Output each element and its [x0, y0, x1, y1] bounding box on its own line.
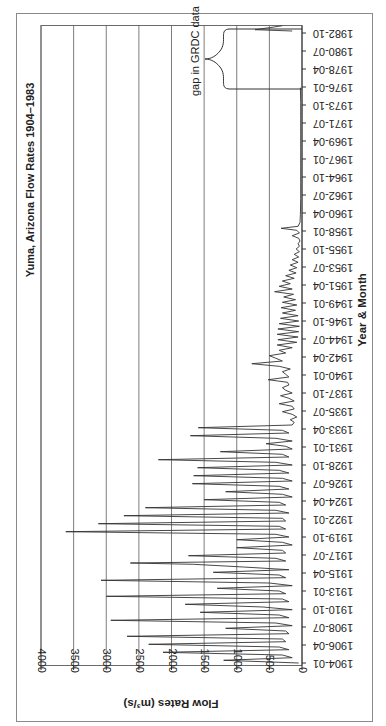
value-tick-label: 3000 — [101, 649, 113, 673]
flow-rate-chart: 05001000150020002500300035004000 1904-01… — [0, 0, 386, 726]
time-tick-label: 1926-07 — [313, 478, 353, 490]
value-tick-label: 0 — [297, 667, 309, 673]
time-tick-label: 1944-07 — [313, 334, 353, 346]
time-tick-label: 1969-04 — [313, 136, 353, 148]
time-tick-label: 1937-10 — [313, 388, 353, 400]
value-tick-label: 3500 — [69, 649, 81, 673]
time-tick-label: 1931-01 — [313, 442, 353, 454]
value-axis-title: Flow Rates (m³/s) — [123, 698, 218, 710]
time-tick-label: 1908-07 — [313, 622, 353, 634]
value-tick-label: 1500 — [199, 649, 211, 673]
time-tick-label: 1942-04 — [313, 352, 353, 364]
value-tick-label: 4000 — [36, 649, 48, 673]
time-tick-label: 1924-04 — [313, 496, 353, 508]
time-tick-label: 1951-04 — [313, 280, 353, 292]
chart-title: Yuma, Arizona Flow Rates 1904–1983 — [24, 83, 36, 278]
time-axis-ticks: 1904-011906-041908-071910-101913-011915-… — [302, 28, 353, 670]
flow-series-line — [66, 26, 301, 663]
time-tick-label: 1906-04 — [313, 640, 353, 652]
time-tick-label: 1960-04 — [313, 208, 353, 220]
time-tick-label: 1917-07 — [313, 550, 353, 562]
time-tick-label: 1955-10 — [313, 244, 353, 256]
time-tick-label: 1973-10 — [313, 100, 353, 112]
time-tick-label: 1946-10 — [313, 316, 353, 328]
gap-annotation-brace — [205, 29, 302, 89]
time-tick-label: 1928-10 — [313, 460, 353, 472]
time-tick-label: 1933-04 — [313, 424, 353, 436]
gap-annotation-label: gap in GRDC data — [189, 5, 201, 96]
time-tick-label: 1904-01 — [313, 658, 353, 670]
time-tick-label: 1958-01 — [313, 226, 353, 238]
time-tick-label: 1982-10 — [313, 28, 353, 40]
time-tick-label: 1953-07 — [313, 262, 353, 274]
time-tick-label: 1967-01 — [313, 154, 353, 166]
time-tick-label: 1949-01 — [313, 298, 353, 310]
time-tick-label: 1919-10 — [313, 532, 353, 544]
time-tick-label: 1980-07 — [313, 46, 353, 58]
time-tick-label: 1935-07 — [313, 406, 353, 418]
time-tick-label: 1976-01 — [313, 82, 353, 94]
value-tick-label: 2500 — [134, 649, 146, 673]
value-gridlines — [41, 26, 269, 667]
time-tick-label: 1964-10 — [313, 172, 353, 184]
time-axis-title: Year & Month — [356, 273, 368, 346]
time-tick-label: 1962-07 — [313, 190, 353, 202]
time-tick-label: 1913-01 — [313, 586, 353, 598]
time-tick-label: 1940-01 — [313, 370, 353, 382]
time-tick-label: 1978-04 — [313, 64, 353, 76]
value-tick-label: 500 — [264, 655, 276, 673]
time-tick-label: 1915-04 — [313, 568, 353, 580]
time-tick-label: 1922-01 — [313, 514, 353, 526]
time-tick-label: 1910-10 — [313, 604, 353, 616]
time-tick-label: 1971-07 — [313, 118, 353, 130]
